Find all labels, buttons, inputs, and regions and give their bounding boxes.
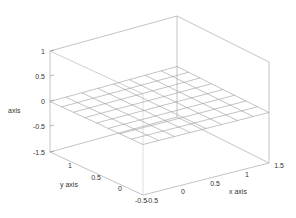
axes-box bbox=[50, 16, 269, 195]
z-axis-ticks: 1 0.5 0 -0.5 -1.5 axis bbox=[8, 48, 54, 156]
z-tick-0.5: 0.5 bbox=[35, 73, 45, 80]
x-axis-ticks: -0.5 0 0.5 1 1.5 x axis bbox=[146, 162, 284, 204]
surface-plot: 1 0.5 0 -0.5 -1.5 axis 1 0.5 0 -0.5 y ax… bbox=[0, 0, 296, 218]
z-tick--0.5: -0.5 bbox=[33, 123, 45, 130]
x-axis-label: x axis bbox=[229, 188, 247, 195]
y-axis-label: y axis bbox=[60, 181, 78, 189]
y-tick-0.5: 0.5 bbox=[91, 174, 101, 181]
y-tick-1: 1 bbox=[68, 162, 72, 169]
x-tick-1.5: 1.5 bbox=[274, 162, 284, 169]
z-axis-label: axis bbox=[8, 107, 21, 114]
plot-area: 1 0.5 0 -0.5 -1.5 axis 1 0.5 0 -0.5 y ax… bbox=[0, 0, 296, 218]
y-tick-0: 0 bbox=[118, 185, 122, 192]
z-tick--1: -1.5 bbox=[33, 149, 45, 156]
x-tick-0: 0 bbox=[181, 188, 185, 195]
x-tick-1: 1 bbox=[245, 171, 249, 178]
x-tick--0.5: -0.5 bbox=[146, 197, 158, 204]
x-tick-0.5: 0.5 bbox=[210, 180, 220, 187]
y-axis-ticks: 1 0.5 0 -0.5 y axis bbox=[60, 162, 147, 204]
z-tick-0: 0 bbox=[41, 98, 45, 105]
surface-grid bbox=[50, 67, 269, 145]
z-tick-1: 1 bbox=[41, 48, 45, 55]
